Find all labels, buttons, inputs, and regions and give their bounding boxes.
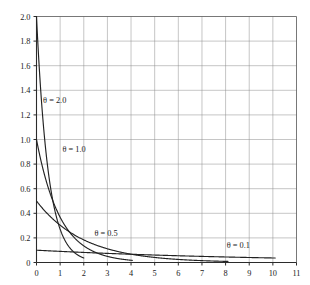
x-tick-label: 10 — [269, 269, 277, 278]
y-tick-label: 0.4 — [20, 209, 31, 218]
x-tick-label: 8 — [224, 269, 228, 278]
y-tick-label: 1.4 — [20, 86, 31, 95]
y-tick-label: 0.6 — [20, 185, 30, 194]
x-tick-label: 9 — [247, 269, 251, 278]
x-tick-label: 11 — [293, 269, 301, 278]
x-tick-label: 7 — [200, 269, 204, 278]
x-axis-tick-labels: 01234567891011 — [34, 269, 300, 278]
x-tick-label: 6 — [176, 269, 180, 278]
y-tick-label: 0.8 — [20, 160, 30, 169]
axis-ticks — [34, 17, 297, 266]
data-curves — [37, 17, 276, 262]
grid-lines — [37, 17, 297, 263]
curve-theta-1 — [37, 140, 133, 261]
x-tick-label: 5 — [153, 269, 157, 278]
y-tick-label: 0.2 — [20, 234, 30, 243]
y-tick-label: 1.2 — [20, 111, 30, 120]
series-annotation-label: θ = 2.0 — [43, 96, 66, 105]
x-tick-label: 0 — [34, 269, 38, 278]
y-tick-label: 1.8 — [20, 37, 30, 46]
y-axis-tick-labels: 00.20.40.60.81.01.21.41.61.82.0 — [20, 13, 31, 268]
x-tick-label: 2 — [82, 269, 86, 278]
exponential-density-chart: 01234567891011 00.20.40.60.81.01.21.41.6… — [0, 0, 310, 285]
chart-canvas: 01234567891011 00.20.40.60.81.01.21.41.6… — [0, 0, 310, 285]
x-tick-label: 3 — [105, 269, 109, 278]
series-annotation-label: θ = 0.1 — [227, 241, 250, 250]
x-tick-label: 1 — [58, 269, 62, 278]
y-tick-label: 2.0 — [20, 13, 30, 22]
series-annotation-label: θ = 0.5 — [94, 229, 117, 238]
y-tick-label: 1.0 — [20, 136, 30, 145]
x-tick-label: 4 — [129, 269, 134, 278]
y-tick-label: 0 — [26, 259, 30, 268]
curve-theta-0-5 — [37, 201, 228, 261]
series-annotation-label: θ = 1.0 — [63, 145, 86, 154]
series-annotations: θ = 2.0θ = 1.0θ = 0.5θ = 0.1 — [43, 96, 250, 251]
y-tick-label: 1.6 — [20, 62, 30, 71]
curve-theta-0-1 — [37, 250, 276, 258]
